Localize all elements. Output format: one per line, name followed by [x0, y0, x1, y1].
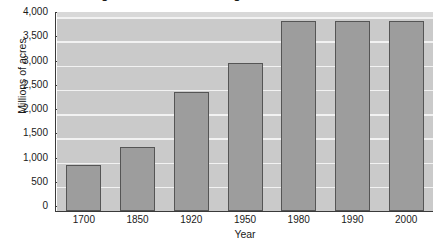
bar	[389, 21, 424, 211]
chart-title: Changes in Forestland Acreage in the Uni…	[72, 0, 360, 1]
x-tick-label: 2000	[376, 214, 433, 225]
x-tick-label: 1920	[161, 214, 221, 225]
y-tick-label: 3,000	[6, 55, 48, 67]
bar	[281, 21, 316, 211]
bar	[228, 63, 263, 211]
y-tick-label: 2,500	[6, 79, 48, 91]
x-tick-label: 1950	[215, 214, 275, 225]
bar	[120, 147, 155, 211]
y-tick-label: 500	[6, 176, 48, 188]
y-tick-label: 3,500	[6, 30, 48, 42]
y-tick-label: 2,000	[6, 103, 48, 115]
y-axis-tick-labels: 05001,0001,5002,0002,5003,0003,5004,000	[6, 7, 48, 219]
y-tick-label: 1,500	[6, 127, 48, 139]
bar	[174, 92, 209, 211]
x-axis-line	[55, 211, 433, 212]
bar	[66, 165, 101, 211]
plot-area	[57, 12, 433, 211]
y-tick-label: 1,000	[6, 152, 48, 164]
y-tick-label: 4,000	[6, 6, 48, 18]
x-tick-label: 1990	[322, 214, 382, 225]
x-axis-tick-labels: 1700185019201950198019902000	[57, 214, 433, 228]
x-axis-title: Year	[57, 228, 433, 240]
x-tick-label: 1980	[269, 214, 329, 225]
bars-group	[57, 12, 433, 211]
y-axis-line	[55, 12, 56, 212]
y-tick-label: 0	[6, 200, 48, 212]
x-tick-label: 1850	[108, 214, 168, 225]
x-tick-label: 1700	[54, 214, 114, 225]
chart-title-clipped-region: Changes in Forestland Acreage in the Uni…	[0, 0, 433, 7]
bar-chart-figure: Changes in Forestland Acreage in the Uni…	[0, 0, 433, 244]
bar	[335, 21, 370, 211]
